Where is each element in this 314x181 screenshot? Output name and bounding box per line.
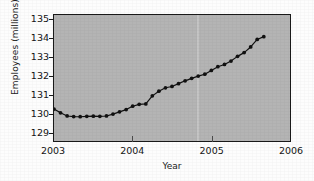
- data-point-marker: [249, 45, 253, 49]
- data-point-marker: [91, 114, 95, 118]
- data-point-marker: [223, 63, 227, 67]
- data-point-marker: [78, 115, 82, 119]
- y-tick-mark: [49, 76, 53, 77]
- x-tick-label: 2005: [192, 146, 232, 156]
- data-point-marker: [72, 115, 76, 119]
- data-point-marker: [164, 86, 168, 90]
- y-tick-label: 133: [23, 52, 49, 62]
- y-tick-label: 135: [23, 14, 49, 24]
- data-point-marker: [229, 59, 233, 63]
- data-point-marker: [177, 82, 181, 86]
- y-tick-mark: [49, 57, 53, 58]
- x-tick-mark: [212, 136, 213, 142]
- data-point-marker: [98, 114, 102, 118]
- data-point-marker: [131, 104, 135, 108]
- plot-area: [53, 14, 291, 142]
- data-point-marker: [262, 35, 266, 39]
- data-point-marker: [242, 51, 246, 55]
- data-point-marker: [157, 89, 161, 93]
- data-point-marker: [150, 94, 154, 98]
- data-point-marker: [105, 114, 109, 118]
- data-point-marker: [255, 38, 259, 42]
- data-point-marker: [85, 114, 89, 118]
- x-tick-label: 2003: [33, 146, 73, 156]
- data-point-marker: [124, 108, 128, 112]
- x-tick-label: 2004: [112, 146, 152, 156]
- data-point-marker: [137, 102, 141, 106]
- data-point-marker: [118, 110, 122, 114]
- series-line: [54, 37, 264, 117]
- x-tick-label: 2006: [271, 146, 311, 156]
- y-tick-mark: [49, 38, 53, 39]
- y-tick-label: 134: [23, 33, 49, 43]
- data-point-marker: [203, 72, 207, 76]
- data-point-marker: [236, 55, 240, 59]
- data-point-marker: [183, 79, 187, 83]
- data-point-marker: [216, 65, 220, 69]
- data-point-marker: [170, 85, 174, 89]
- x-axis-title: Year: [53, 161, 291, 171]
- y-tick-mark: [49, 114, 53, 115]
- data-point-marker: [190, 77, 194, 81]
- y-tick-mark: [49, 133, 53, 134]
- y-tick-mark: [49, 95, 53, 96]
- y-tick-mark: [49, 19, 53, 20]
- data-point-marker: [65, 114, 69, 118]
- x-tick-mark: [132, 136, 133, 142]
- data-point-marker: [196, 74, 200, 78]
- y-axis-title: Employees (millions): [10, 0, 20, 109]
- chart-screenshot: Employees (millions) 1291301311321331341…: [0, 0, 314, 181]
- y-tick-label: 131: [23, 90, 49, 100]
- y-axis-tick-labels: 129130131132133134135: [21, 14, 49, 142]
- data-point-marker: [144, 102, 148, 106]
- series-canvas: [54, 15, 290, 141]
- data-point-marker: [59, 111, 63, 115]
- data-point-marker: [111, 112, 115, 116]
- y-tick-label: 130: [23, 109, 49, 119]
- y-tick-label: 132: [23, 71, 49, 81]
- data-point-marker: [209, 69, 213, 73]
- y-tick-label: 129: [23, 128, 49, 138]
